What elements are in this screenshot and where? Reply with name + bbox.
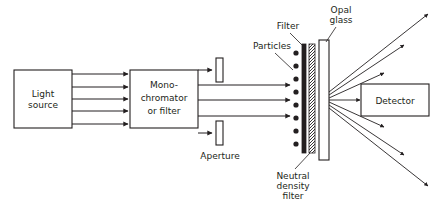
scatter-ray-down-3	[329, 108, 428, 186]
light-source-label-line2: source	[28, 100, 58, 110]
filter-label: Filter	[277, 21, 300, 31]
particles-group	[293, 50, 298, 146]
opal-glass-label-line1: Opal	[331, 5, 352, 15]
filter-bar	[302, 44, 306, 153]
particle-dot	[293, 141, 298, 146]
opal-glass-rect	[319, 40, 329, 160]
monochromator-label-line1: Mono-	[150, 80, 178, 90]
particles-callout: Particles	[253, 41, 293, 70]
aperture-bar-top	[216, 58, 223, 82]
detector-box: Detector	[361, 84, 429, 116]
nd-filter-label-line1: Neutral	[276, 171, 309, 181]
monochromator-output-beams	[198, 70, 290, 133]
particle-dot	[293, 50, 298, 55]
opal-glass-label-line2: glass	[329, 15, 352, 25]
scatter-ray-up-1	[329, 14, 428, 92]
light-source-box: Light source	[14, 70, 72, 128]
aperture-label: Aperture	[200, 151, 240, 161]
particle-dot	[293, 63, 298, 68]
filter-leader-line	[290, 33, 303, 46]
particles-label: Particles	[253, 41, 291, 51]
monochromator-box: Mono- chromator or filter	[130, 70, 198, 128]
particle-dot	[293, 128, 298, 133]
optical-diagram: Light source Mono- chromator or filter	[0, 0, 440, 203]
light-source-rect	[14, 70, 72, 128]
particle-dot	[293, 102, 298, 107]
aperture-group: Aperture	[200, 58, 240, 161]
particle-dot	[293, 115, 298, 120]
aperture-bar-bottom	[216, 121, 223, 145]
source-beam-group	[72, 74, 128, 124]
particle-dot	[293, 76, 298, 81]
particles-leader-line	[275, 53, 293, 70]
monochromator-label-line2: chromator	[141, 93, 188, 103]
light-source-label-line1: Light	[32, 89, 55, 99]
nd-filter-label-line3: filter	[283, 191, 304, 201]
nd-filter-label-line2: density	[277, 181, 311, 191]
neutral-density-filter-bar	[309, 44, 315, 153]
diagram-canvas: Light source Mono- chromator or filter	[0, 0, 440, 203]
monochromator-label-line3: or filter	[147, 106, 180, 116]
particle-dot	[293, 89, 298, 94]
detector-label: Detector	[375, 96, 415, 106]
nd-filter-leader-line	[295, 153, 310, 169]
opal-glass-leader-line	[326, 27, 336, 42]
